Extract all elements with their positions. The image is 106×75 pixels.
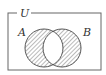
shaded-symmetric-difference (25, 29, 81, 67)
venn-diagram: U A B (0, 0, 106, 75)
set-b-label: B (82, 26, 91, 39)
universe-label: U (20, 7, 30, 20)
set-a-label: A (17, 26, 26, 39)
